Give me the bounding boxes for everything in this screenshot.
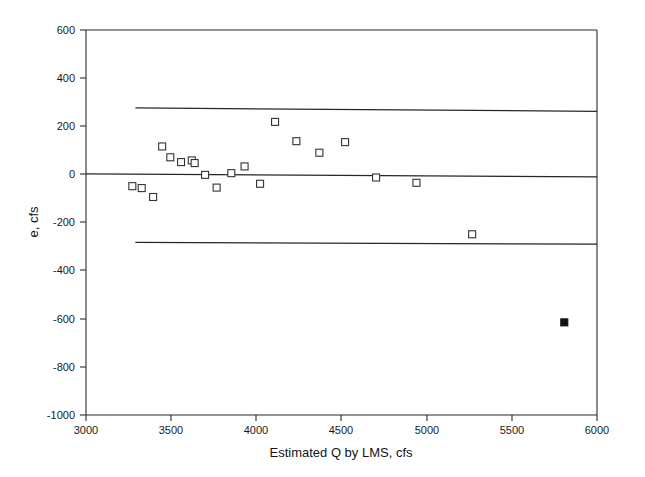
x-tick-label-3000: 3000 [74,424,98,436]
center-line-line [86,174,597,177]
y-tick-label-600: 600 [57,24,75,36]
axis-frame [86,30,597,415]
y-tick-label-minus800: -800 [53,361,75,373]
x-tick-label-5000: 5000 [415,424,439,436]
y-tick-label-minus600: -600 [53,313,75,325]
y-axis-ticks: 600 400 200 0 -200 -400 -600 -800 -1000 [47,24,86,421]
upper-limit-line [135,108,597,111]
data-point-residuals [272,118,279,125]
data-point-residuals [202,171,209,178]
y-tick-label-200: 200 [57,120,75,132]
x-tick-label-3500: 3500 [159,424,183,436]
data-point-residuals [178,159,185,166]
x-tick-label-4000: 4000 [244,424,268,436]
scatter-plot-figure: 600 400 200 0 -200 -400 -600 -800 -1000 … [0,0,645,477]
x-axis-title: Estimated Q by LMS, cfs [269,445,413,460]
y-tick-label-0: 0 [69,168,75,180]
plot-canvas: 600 400 200 0 -200 -400 -600 -800 -1000 … [0,0,645,477]
data-point-residuals [293,138,300,145]
reference-lines-group [86,108,597,244]
data-point-residuals [257,180,264,187]
y-tick-label-minus200: -200 [53,216,75,228]
y-tick-label-minus1000: -1000 [47,409,75,421]
lower-limit-line [135,242,597,244]
data-markers-group [129,118,568,325]
data-point-residuals [469,231,476,238]
data-point-residuals [373,174,380,181]
data-point-residuals [213,184,220,191]
data-point-residuals [167,154,174,161]
data-point-residuals [342,139,349,146]
y-tick-label-400: 400 [57,72,75,84]
x-axis-ticks: 3000 3500 4000 4500 5000 5500 6000 [74,415,609,436]
data-point-residuals [241,163,248,170]
data-point-residuals [138,185,145,192]
data-point-residuals [316,149,323,156]
data-point-residuals [191,160,198,167]
data-point-residuals [129,183,136,190]
data-point-residuals [159,143,166,150]
data-point-residuals [150,193,157,200]
x-tick-label-4500: 4500 [329,424,353,436]
data-point-residuals [413,179,420,186]
y-tick-label-minus400: -400 [53,264,75,276]
data-point-outlier [561,319,568,326]
x-tick-label-5500: 5500 [500,424,524,436]
y-axis-title: e, cfs [26,206,41,238]
x-tick-label-6000: 6000 [585,424,609,436]
data-point-residuals [228,170,235,177]
